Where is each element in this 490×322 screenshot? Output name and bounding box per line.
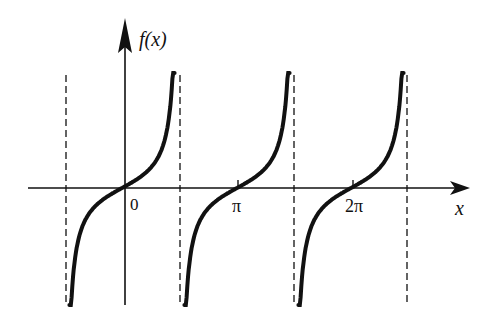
tan-curves <box>69 73 403 305</box>
x-axis-label: x <box>454 197 464 219</box>
tick-label-2pi: 2π <box>345 196 363 216</box>
tan-branch-1 <box>184 73 289 305</box>
tangent-graph: f(x) x 0 π 2π <box>0 0 490 322</box>
tick-label-pi: π <box>232 196 241 216</box>
tick-label-0: 0 <box>130 195 139 214</box>
y-axis-label: f(x) <box>139 28 167 51</box>
tan-branch-2 <box>298 73 403 305</box>
tan-branch-0 <box>69 73 174 305</box>
